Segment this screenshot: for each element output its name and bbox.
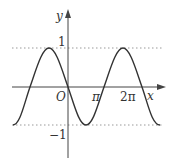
x-tick-2pi: 2π xyxy=(120,91,136,103)
y-axis-label: y xyxy=(56,10,63,22)
y-tick-1: 1 xyxy=(58,36,66,48)
graph-canvas xyxy=(0,0,175,163)
y-axis-arrow-icon xyxy=(65,9,71,18)
y-tick-neg1: −1 xyxy=(49,129,67,141)
x-axis-arrow-icon xyxy=(157,84,166,90)
x-axis-label: x xyxy=(147,90,154,102)
origin-label: O xyxy=(56,91,66,103)
x-tick-pi: π xyxy=(92,91,100,103)
